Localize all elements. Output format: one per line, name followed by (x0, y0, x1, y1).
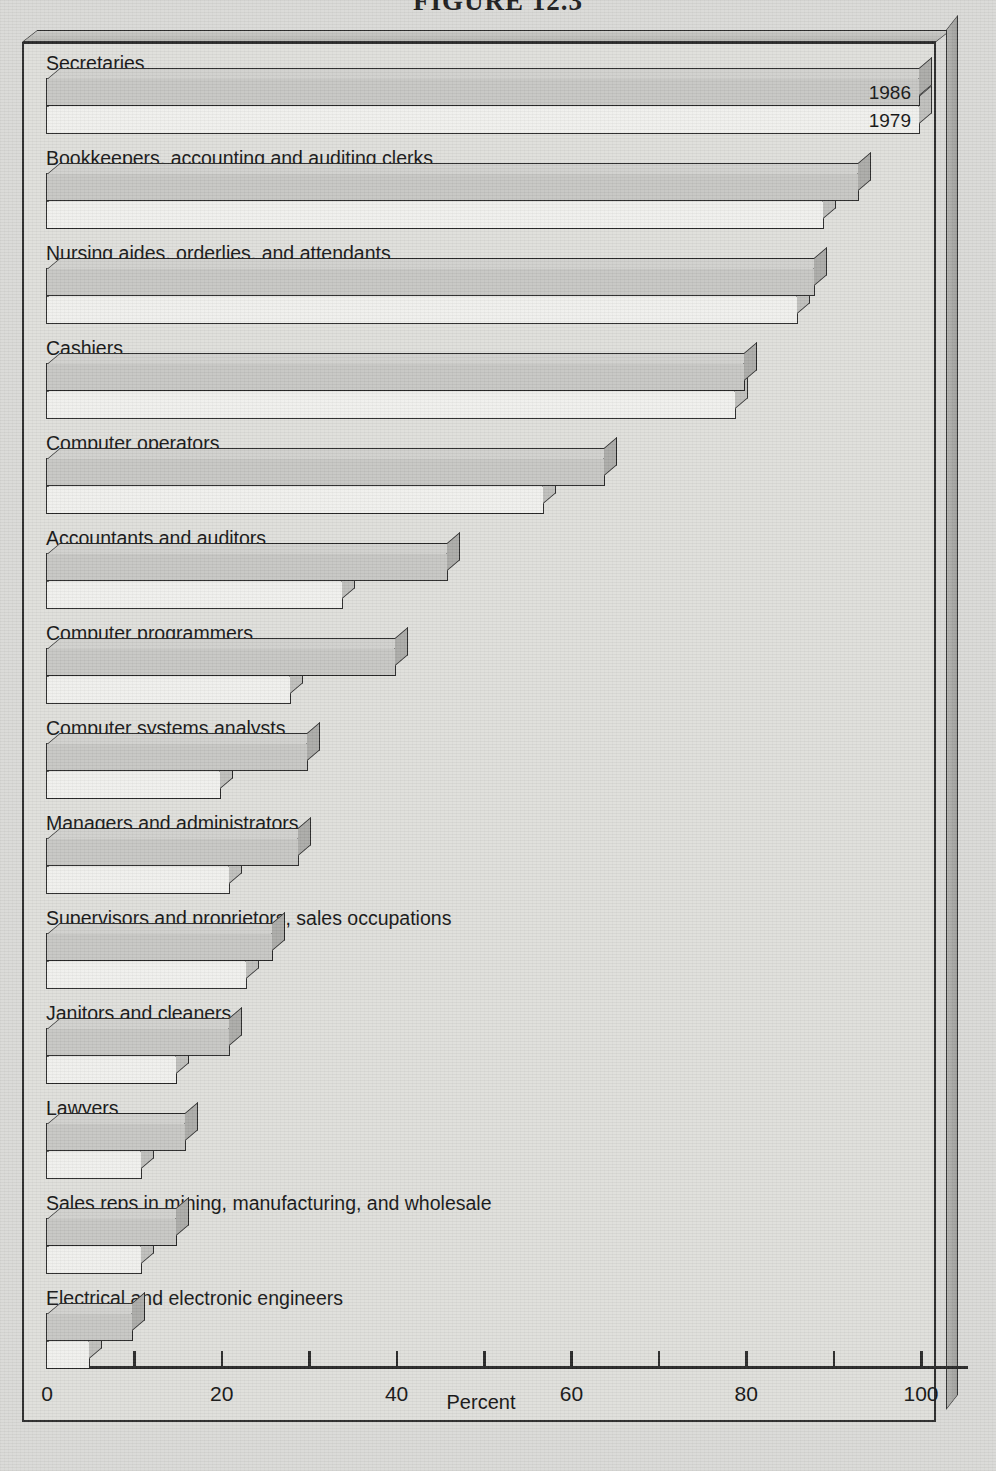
bar-top-face (47, 923, 285, 934)
bar-right-face (185, 1102, 198, 1141)
bar-1986 (46, 1218, 177, 1246)
bar-1979 (46, 1151, 142, 1179)
bar-top-face (47, 1113, 198, 1124)
bar-right-face (604, 437, 617, 476)
bar-pair (46, 1123, 956, 1183)
bar-top-face (47, 163, 871, 174)
bar-group: Accountants and auditors (24, 525, 934, 620)
bar-pair (46, 1313, 956, 1373)
x-axis-tick (745, 1351, 748, 1366)
x-axis-tick (396, 1351, 399, 1366)
bar-group: Computer operators (24, 430, 934, 525)
bar-1979 (46, 296, 798, 324)
bar-group: Managers and administrators (24, 810, 934, 905)
bar-top-face (47, 733, 320, 744)
bar-group: Bookkeepers, accounting and auditing cle… (24, 145, 934, 240)
bar-1986 (46, 173, 859, 201)
bar-1979 (46, 866, 230, 894)
bar-group: Supervisors and proprietors, sales occup… (24, 905, 934, 1000)
bar-1986 (46, 838, 299, 866)
bar-1979 (46, 1246, 142, 1274)
bar-pair (46, 363, 956, 423)
bar-top-face (47, 448, 617, 459)
bar-1986 (46, 648, 396, 676)
bar-group: Computer programmers (24, 620, 934, 715)
bar-top-face (47, 638, 408, 649)
bar-right-face (814, 247, 827, 286)
bar-pair (46, 648, 956, 708)
bar-1986 (46, 458, 605, 486)
bar-group: Secretaries19861979 (24, 50, 934, 145)
bar-pair (46, 743, 956, 803)
bar-pair (46, 458, 956, 518)
frame-top-bevel (22, 30, 951, 42)
bar-group-list: Secretaries19861979Bookkeepers, accounti… (24, 50, 934, 1380)
bar-pair (46, 173, 956, 233)
x-axis-tick (308, 1351, 311, 1366)
bar-1979 (46, 771, 221, 799)
bar-right-face (447, 532, 460, 571)
bar-group: Nursing aides, orderlies, and attendants (24, 240, 934, 335)
bar-top-face (47, 1208, 189, 1219)
bar-1986 (46, 743, 308, 771)
bar-right-face (307, 722, 320, 761)
bar-1986 (46, 933, 273, 961)
bar-1979 (46, 1341, 90, 1369)
bar-group: Cashiers (24, 335, 934, 430)
bar-right-face (744, 342, 757, 381)
bar-1979 (46, 676, 291, 704)
figure-caption: FIGURE 12.3 (0, 0, 996, 17)
bar-group: Computer systems analysts (24, 715, 934, 810)
bar-pair (46, 838, 956, 898)
bar-top-face (47, 353, 757, 364)
bar-top-face (47, 1303, 145, 1314)
bar-1979 (46, 1056, 177, 1084)
bar-1986 (46, 268, 815, 296)
bar-1986 (46, 363, 745, 391)
bar-1979: 1979 (46, 106, 920, 134)
x-axis-tick (833, 1351, 836, 1366)
bar-pair (46, 933, 956, 993)
x-axis-tick (658, 1351, 661, 1366)
bar-top-face (47, 543, 460, 554)
bar-top-face (47, 828, 312, 839)
legend-label-1986: 1986 (869, 81, 911, 105)
bar-1979 (46, 486, 544, 514)
bar-top-face (47, 68, 932, 79)
bar-1986 (46, 1313, 133, 1341)
bar-1979 (46, 201, 824, 229)
bar-1979 (46, 581, 343, 609)
x-axis-tick (483, 1351, 486, 1366)
chart-plot-panel: Secretaries19861979Bookkeepers, accounti… (22, 42, 936, 1422)
bar-1986 (46, 1123, 186, 1151)
x-axis-tick (221, 1351, 224, 1366)
bar-right-face (298, 817, 311, 856)
legend-label-1979: 1979 (869, 109, 911, 133)
x-axis-title: Percent (24, 1391, 938, 1414)
bar-pair (46, 1218, 956, 1278)
bar-pair (46, 1028, 956, 1088)
bar-group: Sales reps in mining, manufacturing, and… (24, 1190, 934, 1285)
x-axis-tick (570, 1351, 573, 1366)
bar-group: Janitors and cleaners (24, 1000, 934, 1095)
bar-1986: 1986 (46, 78, 920, 106)
bar-1979 (46, 391, 736, 419)
bar-pair (46, 553, 956, 613)
bar-right-face (858, 152, 871, 191)
chart-frame: Secretaries19861979Bookkeepers, accounti… (22, 30, 958, 1422)
bar-pair (46, 268, 956, 328)
plot-area: Secretaries19861979Bookkeepers, accounti… (24, 44, 934, 1420)
bar-group: Lawyers (24, 1095, 934, 1190)
bar-1986 (46, 553, 448, 581)
x-axis-tick (133, 1351, 136, 1366)
bar-top-face (47, 1018, 242, 1029)
bar-right-face (395, 627, 408, 666)
x-axis: 020406080100 (24, 1366, 934, 1368)
bar-pair: 19861979 (46, 78, 956, 138)
bar-1986 (46, 1028, 230, 1056)
x-axis-tick (920, 1351, 923, 1366)
bar-1979 (46, 961, 247, 989)
bar-top-face (47, 258, 827, 269)
x-axis-line (46, 1366, 968, 1369)
